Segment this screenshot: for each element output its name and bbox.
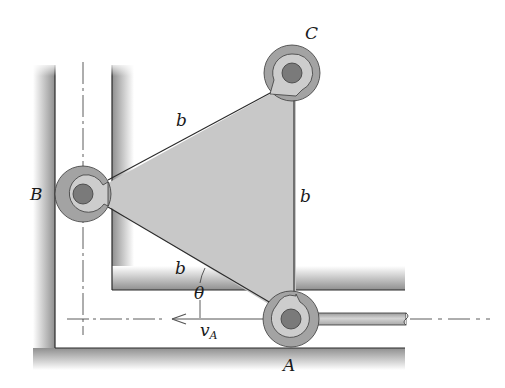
pin-A [263, 291, 319, 347]
velocity-arrow-vA [172, 314, 272, 324]
label-side-BA: b [175, 260, 186, 277]
velocity-symbol: v [200, 320, 210, 340]
pin-C [264, 45, 320, 101]
label-side-CA: b [300, 188, 311, 205]
label-velocity-vA: vA [200, 322, 218, 341]
mechanism-figure [0, 0, 505, 388]
velocity-subscript: A [210, 329, 218, 342]
label-theta: θ [194, 285, 204, 302]
label-side-BC: b [176, 112, 187, 129]
label-pin-A: A [283, 357, 295, 374]
label-pin-C: C [305, 25, 318, 42]
label-pin-B: B [30, 186, 43, 203]
pin-B [55, 166, 111, 222]
wall-fade [30, 62, 140, 76]
